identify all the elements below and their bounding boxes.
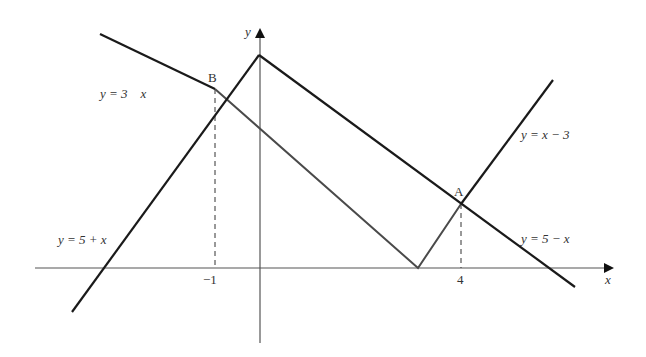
label-y-3-minus-x: y = 3 x [98,86,147,101]
line-y-5-minus-x [259,55,575,287]
point-b-label: B [208,70,217,85]
label-y-5-minus-x: y = 5 − x [519,231,570,246]
inner-path [215,89,461,268]
graph-diagram: y x −1 4 B A y = 3 x y = 5 + x y = x − 3… [0,0,646,357]
line-y-3-minus-x [100,34,215,89]
x-axis-label: x [604,272,611,287]
label-y-x-minus-3: y = x − 3 [519,127,570,142]
line-y-x-minus-3 [461,80,553,204]
point-a-label: A [454,184,464,199]
graph-canvas: y x −1 4 B A y = 3 x y = 5 + x y = x − 3… [0,0,646,357]
y-axis-label: y [243,24,251,39]
label-y-5-plus-x: y = 5 + x [56,232,107,247]
tick-label-4: 4 [457,272,464,287]
tick-label-minus-1: −1 [203,272,217,287]
